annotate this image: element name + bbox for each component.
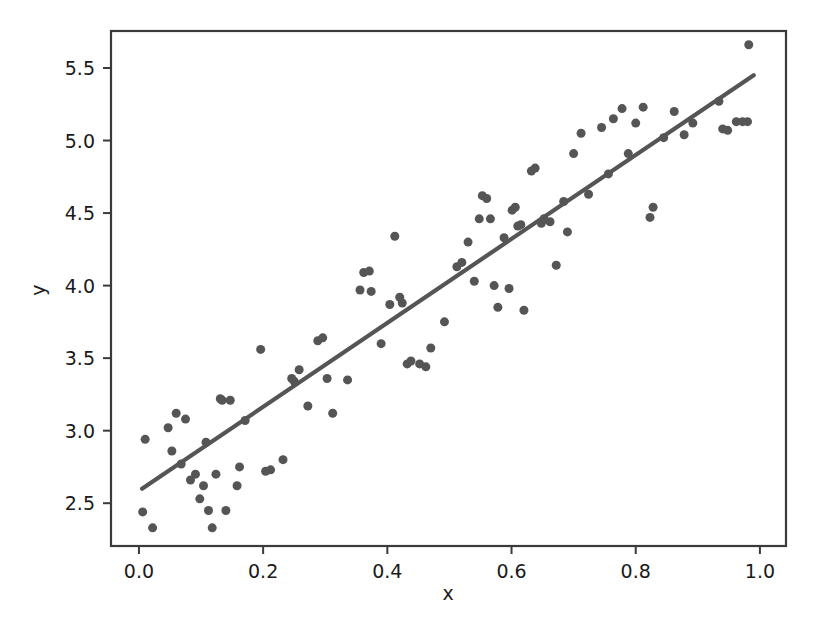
data-point xyxy=(744,40,753,49)
data-point xyxy=(670,107,679,116)
data-point xyxy=(743,117,752,126)
data-point xyxy=(199,481,208,490)
data-point xyxy=(226,396,235,405)
data-point xyxy=(191,470,200,479)
y-tick-label: 3.5 xyxy=(65,347,95,369)
data-point xyxy=(482,194,491,203)
y-tick-label: 3.0 xyxy=(65,420,95,442)
data-point xyxy=(609,114,618,123)
data-point xyxy=(577,129,586,138)
data-point xyxy=(505,284,514,293)
y-tick-label: 5.0 xyxy=(65,130,95,152)
data-point xyxy=(457,258,466,267)
data-point xyxy=(490,281,499,290)
data-point xyxy=(367,287,376,296)
data-point xyxy=(195,494,204,503)
data-point xyxy=(323,374,332,383)
data-point xyxy=(440,317,449,326)
x-tick-label: 0.6 xyxy=(496,560,526,582)
data-point xyxy=(235,462,244,471)
data-point xyxy=(464,238,473,247)
data-point xyxy=(318,333,327,342)
data-point xyxy=(649,203,658,212)
data-point xyxy=(475,214,484,223)
data-point xyxy=(164,423,173,432)
data-point xyxy=(141,435,150,444)
data-point xyxy=(563,227,572,236)
y-tick-label: 2.5 xyxy=(65,492,95,514)
data-point xyxy=(421,362,430,371)
data-point xyxy=(167,446,176,455)
data-point xyxy=(233,481,242,490)
scatter-plot: 0.00.20.40.60.81.0 2.53.03.54.04.55.05.5… xyxy=(0,0,831,627)
data-point xyxy=(390,232,399,241)
y-tick-label: 4.5 xyxy=(65,202,95,224)
data-point xyxy=(552,261,561,270)
figure-canvas: 0.00.20.40.60.81.0 2.53.03.54.04.55.05.5… xyxy=(0,0,831,627)
y-axis-label: y xyxy=(27,284,49,295)
data-point xyxy=(356,285,365,294)
data-point xyxy=(172,409,181,418)
y-tick-label: 4.0 xyxy=(65,275,95,297)
data-point xyxy=(256,345,265,354)
data-point xyxy=(531,164,540,173)
data-point xyxy=(218,396,227,405)
data-point xyxy=(546,217,555,226)
data-point xyxy=(406,357,415,366)
data-point xyxy=(511,203,520,212)
data-point xyxy=(303,402,312,411)
data-point xyxy=(204,506,213,515)
data-point xyxy=(569,149,578,158)
data-point xyxy=(279,455,288,464)
data-point xyxy=(221,506,230,515)
x-tick-label: 0.2 xyxy=(248,560,278,582)
x-tick-label: 0.8 xyxy=(621,560,651,582)
figure-background xyxy=(0,0,831,627)
data-point xyxy=(138,507,147,516)
data-point xyxy=(295,365,304,374)
data-point xyxy=(328,409,337,418)
data-point xyxy=(618,104,627,113)
data-point xyxy=(597,123,606,132)
y-tick-label: 5.5 xyxy=(65,57,95,79)
data-point xyxy=(208,523,217,532)
data-point xyxy=(343,375,352,384)
data-point xyxy=(426,343,435,352)
data-point xyxy=(519,306,528,315)
data-point xyxy=(181,415,190,424)
data-point xyxy=(365,267,374,276)
data-point xyxy=(266,465,275,474)
x-axis-label: x xyxy=(442,582,453,604)
data-point xyxy=(680,130,689,139)
data-point xyxy=(516,220,525,229)
data-point xyxy=(470,277,479,286)
data-point xyxy=(148,523,157,532)
x-tick-label: 0.0 xyxy=(124,560,154,582)
data-point xyxy=(631,119,640,128)
data-point xyxy=(493,303,502,312)
x-tick-label: 0.4 xyxy=(372,560,402,582)
data-point xyxy=(723,126,732,135)
data-point xyxy=(398,299,407,308)
data-point xyxy=(486,214,495,223)
data-point xyxy=(377,339,386,348)
data-point xyxy=(646,213,655,222)
x-tick-label: 1.0 xyxy=(745,560,775,582)
data-point xyxy=(385,300,394,309)
data-point xyxy=(639,103,648,112)
data-point xyxy=(211,470,220,479)
